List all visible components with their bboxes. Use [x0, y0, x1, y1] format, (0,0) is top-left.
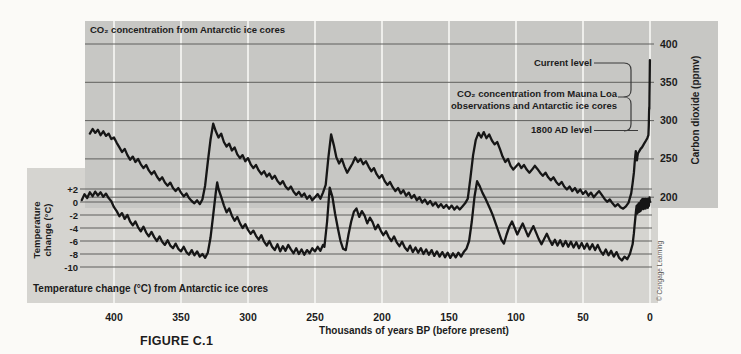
temp-axis-label: Temperature change (°C) [31, 192, 53, 268]
co2-tick-label: 300 [660, 114, 678, 126]
co2-tick-label: 350 [660, 76, 678, 88]
x-tick-label: 0 [647, 311, 653, 323]
temp-tick-label: +2 [67, 184, 78, 195]
mauna-loa-label-line1: CO₂ concentration from Mauna Loa [451, 88, 617, 100]
figure-caption: FIGURE C.1 [140, 334, 213, 348]
x-tick-label: 150 [440, 311, 458, 323]
x-tick-label: 300 [239, 311, 257, 323]
x-tick-label: 100 [507, 311, 525, 323]
x-tick-label: 200 [373, 311, 391, 323]
mauna-loa-label: CO₂ concentration from Mauna Loa observa… [451, 88, 617, 111]
x-tick-label: 400 [105, 311, 123, 323]
x-tick-label: 350 [172, 311, 190, 323]
co2-tick-label: 400 [660, 38, 678, 50]
temp-tick-label: -4 [70, 223, 79, 234]
temp-tick-label: -6 [70, 236, 78, 247]
temp-axis-label-line2: change (°C) [42, 192, 53, 268]
mauna-loa-label-line2: observations and Antarctic ice cores [451, 100, 617, 112]
temp-tick-label: -8 [70, 249, 78, 260]
co2-panel-background [85, 21, 718, 208]
temp-panel-title: Temperature change (°C) from Antarctic i… [33, 283, 268, 294]
1800-ad-level-label: 1800 AD level [531, 124, 592, 136]
co2-panel-title: CO₂ concentration from Antarctic ice cor… [90, 24, 285, 35]
copyright-credit: © Cengage Learning [656, 241, 663, 301]
co2-axis-label: Carbon dioxide (ppmv) [690, 50, 701, 170]
temp-axis-label-line1: Temperature [31, 192, 42, 268]
chart-canvas: 400350300250200+20-2-4-6-8-1040035030025… [0, 0, 741, 354]
temp-tick-label: -10 [64, 262, 78, 273]
co2-tick-label: 200 [660, 191, 678, 203]
co2-tick-label: 250 [660, 152, 678, 164]
x-axis-label: Thousands of years BP (before present) [264, 325, 564, 336]
current-level-label: Current level [534, 57, 592, 69]
x-tick-label: 250 [306, 311, 324, 323]
figure-c1: 400350300250200+20-2-4-6-8-1040035030025… [0, 0, 741, 354]
x-tick-label: 50 [577, 311, 589, 323]
temp-tick-label: 0 [73, 197, 78, 208]
temp-tick-label: -2 [70, 210, 78, 221]
